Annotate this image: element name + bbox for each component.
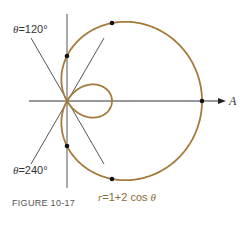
label-theta-120: θ=120° [13,23,48,35]
axis-label-a: A [229,94,236,109]
arrow-icon [218,98,226,104]
equation-text: =1+2 cos [102,191,147,203]
angle-value: =120° [18,23,47,35]
point-theta-90 [65,54,70,59]
theta-symbol: θ [151,191,156,203]
angle-value: =240° [18,164,47,176]
point-theta-60 [110,21,115,26]
point-theta-0 [200,99,205,104]
curve-equation: r=1+2 cos θ [98,191,156,203]
figure-caption: FIGURE 10-17 [12,198,75,208]
label-theta-240: θ=240° [13,164,48,176]
point-theta-300 [110,177,115,182]
point-theta-270 [65,144,70,149]
